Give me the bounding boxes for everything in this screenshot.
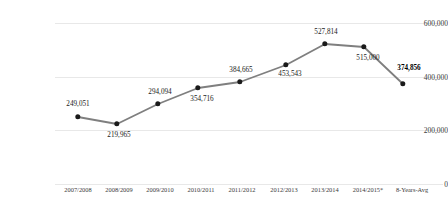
data-label: 354,716 xyxy=(190,95,213,103)
data-label: 374,856 xyxy=(397,64,420,72)
data-label: 219,965 xyxy=(107,131,130,139)
data-label: 249,051 xyxy=(66,100,89,108)
xtick-label: 2012/2013 xyxy=(270,186,297,193)
data-label: 527,814 xyxy=(314,28,337,36)
xtick-label: 2011/2012 xyxy=(228,186,255,193)
xtick-label: 2009/2010 xyxy=(146,186,173,193)
data-label: 515,000 xyxy=(356,54,379,62)
xtick-label: 2013/2014 xyxy=(311,186,338,193)
data-label: 384,665 xyxy=(229,66,252,74)
xtick-label: 2007/2008 xyxy=(64,186,91,193)
xtick-label: 2008/2009 xyxy=(105,186,132,193)
line-chart: 600,000 400,000 200,000 0 249,051 219,96… xyxy=(0,0,448,197)
data-label: 294,094 xyxy=(148,88,171,96)
xtick-label: 8-Years-Avg xyxy=(396,186,428,193)
xtick-label: 2010/2011 xyxy=(187,186,214,193)
data-label: 453,543 xyxy=(278,70,301,78)
xtick-label: 2014/2015* xyxy=(353,186,384,193)
series-line xyxy=(0,0,448,197)
